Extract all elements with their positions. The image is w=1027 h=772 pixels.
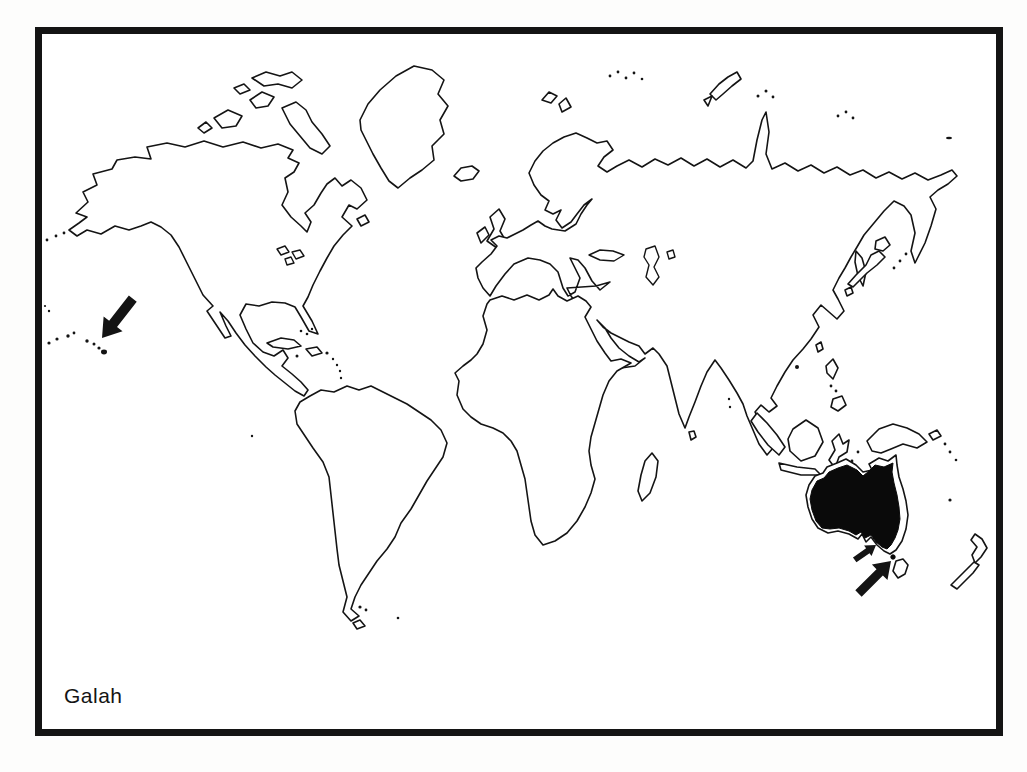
puerto-rico-dot xyxy=(325,351,328,354)
falklands-dot xyxy=(365,609,368,612)
aral-sea-outline xyxy=(667,250,675,259)
aleutian-dot xyxy=(63,232,66,235)
map-caption: Galah xyxy=(64,684,123,707)
aleutian-dot xyxy=(46,239,49,242)
south-georgia-dot xyxy=(397,617,400,620)
falklands-dot xyxy=(358,605,361,608)
moluccas-dot xyxy=(851,460,854,463)
franz-josef-dot xyxy=(625,77,628,80)
solomons-dot xyxy=(955,459,958,462)
franz-josef-dot xyxy=(609,75,612,78)
hawaii-dot xyxy=(97,346,100,349)
severnaya-dot xyxy=(757,95,760,98)
philippines-dot xyxy=(830,385,833,388)
bahamas-dot xyxy=(311,328,313,330)
aleutian-dot xyxy=(39,242,41,244)
solomons-dot xyxy=(949,451,952,454)
severnaya-dot xyxy=(765,90,768,93)
antilles-dot xyxy=(336,364,338,366)
wrangel-dash xyxy=(946,137,952,139)
hawaii-dot xyxy=(73,332,76,335)
franz-josef-dot xyxy=(617,71,620,74)
antilles-dot xyxy=(339,370,341,372)
andaman-dot xyxy=(728,398,730,400)
kuril-dot xyxy=(893,267,896,270)
severnaya-dot xyxy=(772,96,775,99)
hawaii-dot xyxy=(66,334,69,337)
andaman-dot xyxy=(729,406,731,408)
new-caledonia-dash xyxy=(948,498,951,501)
bahamas-dot xyxy=(300,330,303,333)
philippines-dot xyxy=(835,390,838,393)
moluccas-dot xyxy=(857,451,860,454)
jamaica-dot xyxy=(296,355,299,358)
new-siberian-dot xyxy=(845,111,848,114)
ocean-speck xyxy=(48,310,50,312)
hawaii-dot xyxy=(47,341,50,344)
range-map-figure: Galah xyxy=(0,0,1027,772)
solomons-dot xyxy=(944,443,947,446)
franz-josef-dot xyxy=(641,78,644,81)
galapagos-dot xyxy=(251,435,253,437)
antilles-dot xyxy=(340,377,342,379)
new-siberian-dot xyxy=(852,117,855,120)
world-map-svg: Galah xyxy=(0,0,1027,772)
hawaii-dot xyxy=(55,337,58,340)
antilles-dot xyxy=(332,358,334,360)
ocean-speck xyxy=(44,305,46,307)
hawaii-dot xyxy=(93,343,96,346)
scanned-page: Galah xyxy=(0,0,1027,772)
bahamas-dot xyxy=(306,333,309,336)
new-siberian-dot xyxy=(837,115,840,118)
franz-josef-dot xyxy=(633,72,636,75)
kuril-dot xyxy=(905,253,908,256)
hainan-dot xyxy=(795,365,799,369)
taiwan-outline xyxy=(816,342,823,352)
aleutian-dot xyxy=(55,235,58,238)
bass-strait-islet-fill xyxy=(891,555,895,559)
hawaii-dot xyxy=(85,339,88,342)
hawaii-big-island-dot xyxy=(101,350,107,355)
kuril-dot xyxy=(899,260,902,263)
